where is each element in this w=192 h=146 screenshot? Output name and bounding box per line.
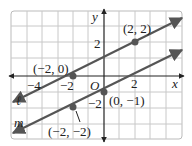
x-tick-neg2: −2 [60,78,74,93]
line-l-label: ℓ [16,93,22,108]
point-neg2-neg2 [70,104,77,111]
point-label-0-neg1: (0, −1) [109,93,145,108]
origin-label: O [90,78,100,93]
x-tick-neg4: −4 [27,78,41,93]
y-axis-label: y [90,9,98,24]
point-label-neg2-neg2: (−2, −2) [48,124,91,139]
point-0-neg1 [101,89,108,96]
y-tick-2: 2 [94,36,101,51]
x-tick-2: 2 [131,76,138,91]
point-label-neg2-0: (−2, 0) [33,61,69,76]
coordinate-graph: y x O −4 −2 2 2 −2 (2, 2) (−2, 0) (0, −1… [0,0,192,146]
line-m-label: m [14,115,23,130]
callout-pointer [76,111,80,122]
point-label-2-2: (2, 2) [123,21,151,36]
point-2-2 [132,39,139,46]
x-axis-label: x [171,76,178,91]
y-tick-neg2: −2 [88,96,102,111]
